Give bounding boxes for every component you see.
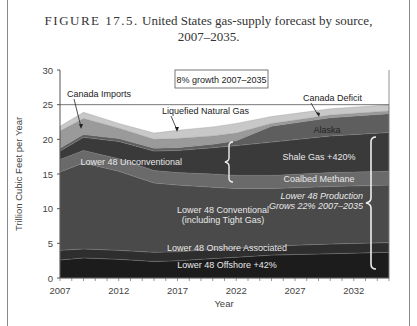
x-axis-label: Year <box>214 298 233 309</box>
label-coalbed: Coalbed Methane <box>283 174 354 184</box>
x-tick-label: 2007 <box>49 285 70 296</box>
x-tick-label: 2022 <box>226 285 247 296</box>
label-canada-imports: Canada Imports <box>67 89 132 99</box>
label-unconventional: Lower 48 Unconventional <box>80 157 182 167</box>
label-production-1: Lower 48 Production <box>280 191 363 201</box>
x-ticks: 200720122017202220272032 <box>49 278 389 296</box>
y-tick-label: 25 <box>42 99 53 110</box>
growth-box-text: 8% growth 2007–2035 <box>176 75 266 85</box>
stacked-area-chart: 051015202530 200720122017202220272032 Tr… <box>0 0 417 326</box>
y-tick-label: 30 <box>42 65 53 76</box>
label-canada-deficit: Canada Deficit <box>303 93 363 103</box>
label-conventional-2: (including Tight Gas) <box>182 215 265 225</box>
x-tick-label: 2017 <box>167 285 188 296</box>
x-tick-label: 2012 <box>108 285 129 296</box>
y-ticks: 051015202530 <box>42 65 60 284</box>
y-tick-label: 5 <box>48 238 53 249</box>
label-lng: Liquefied Natural Gas <box>162 106 250 116</box>
y-axis-label: Trillion Cubic Feet per Year <box>13 117 24 231</box>
y-tick-label: 10 <box>42 203 53 214</box>
label-onshore: Lower 48 Onshore Associated <box>167 243 287 253</box>
x-tick-label: 2032 <box>343 285 364 296</box>
label-shale: Shale Gas +420% <box>283 152 356 162</box>
label-conventional-1: Lower 48 Conventional <box>177 205 269 215</box>
label-production-2: Grows 22% 2007–2035 <box>269 201 364 211</box>
label-offshore: Lower 48 Offshore +42% <box>177 260 277 270</box>
y-tick-label: 0 <box>48 273 53 284</box>
y-tick-label: 20 <box>42 134 53 145</box>
label-alaska: Alaska <box>313 125 340 135</box>
x-tick-label: 2027 <box>284 285 305 296</box>
y-tick-label: 15 <box>42 169 53 180</box>
